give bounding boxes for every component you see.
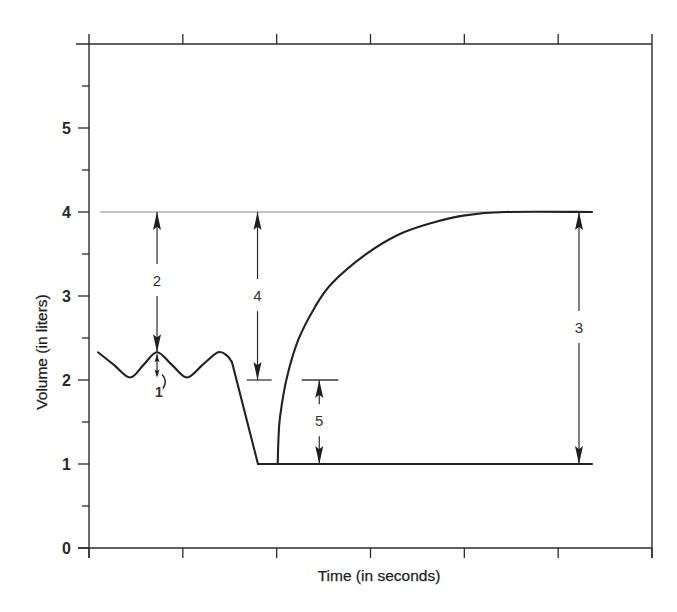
annotation-3-label: 3 <box>575 319 583 336</box>
series-tidal-breathing <box>98 352 232 378</box>
y-tick-label: 2 <box>62 372 71 389</box>
dimension-annotations: 12435 <box>153 212 583 464</box>
x-axis-title: Time (in seconds) <box>318 567 441 584</box>
axis-ticks: 012345 <box>62 34 652 558</box>
annotation-1-label: 1 <box>155 384 163 400</box>
annotation-4-label: 4 <box>253 287 261 304</box>
annotation-2-label: 2 <box>153 272 161 289</box>
y-tick-label: 4 <box>62 204 71 221</box>
data-series <box>98 212 592 464</box>
series-forced-expiration <box>232 362 258 464</box>
y-tick-label: 3 <box>62 288 71 305</box>
series-maximal-inspiration <box>278 212 592 464</box>
chart-frame <box>76 34 652 558</box>
y-axis-title: Volume (in liters) <box>33 294 50 409</box>
annotation-5-label: 5 <box>315 412 323 429</box>
y-tick-label: 0 <box>62 540 71 557</box>
volume-time-chart: 012345 12435 Volume (in liters) Time (in… <box>0 0 677 612</box>
y-tick-label: 5 <box>62 120 71 137</box>
y-tick-label: 1 <box>62 456 71 473</box>
